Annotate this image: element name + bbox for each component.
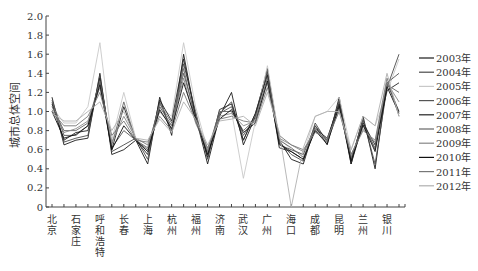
legend-label: 2006年	[436, 95, 471, 107]
legend-label: 2011年	[436, 166, 471, 178]
legend-label: 2003年	[436, 52, 471, 64]
x-tick-label: 海口	[286, 213, 296, 236]
legend-label: 2009年	[436, 137, 471, 149]
x-tick-label: 上海	[143, 214, 153, 236]
x-tick-label: 长春	[119, 214, 129, 236]
legend-label: 2007年	[436, 109, 471, 121]
x-tick-label: 北京	[47, 214, 57, 236]
y-tick-label: 0.2	[27, 182, 43, 193]
series-line-2006年	[52, 73, 399, 159]
x-tick-label: 福州	[191, 213, 201, 236]
series-lines	[52, 43, 399, 207]
legend-label: 2008年	[436, 123, 471, 135]
y-tick-label: 0.6	[27, 144, 43, 155]
x-tick-label: 兰州	[358, 213, 368, 236]
legend-label: 2005年	[436, 80, 471, 92]
legend-label: 2012年	[436, 180, 471, 192]
y-tick-label: 1.6	[27, 49, 43, 60]
y-tick-label: 0	[37, 202, 43, 213]
axes: 00.20.40.60.81.01.21.41.61.82.0北京石家庄呼和浩特…	[27, 11, 405, 259]
y-axis-label: 城市总体空间	[8, 82, 22, 148]
x-tick-label: 济南	[215, 213, 225, 236]
series-line-2010年	[52, 81, 399, 161]
y-tick-label: 1.4	[27, 68, 43, 79]
x-tick-label: 呼和浩特	[95, 214, 105, 258]
x-tick-label: 成都	[310, 214, 320, 236]
y-tick-label: 0.4	[27, 163, 43, 174]
y-tick-label: 1.8	[27, 30, 43, 41]
x-tick-label: 武汉	[238, 213, 248, 236]
x-tick-label: 广州	[262, 214, 272, 236]
x-tick-label: 银川	[382, 213, 392, 236]
legend-label: 2010年	[436, 151, 471, 163]
x-tick-label: 杭州	[167, 213, 177, 236]
legend: 2003年2004年2005年2006年2007年2008年2009年2010年…	[419, 52, 471, 192]
line-chart: 00.20.40.60.81.01.21.41.61.82.0北京石家庄呼和浩特…	[0, 0, 478, 271]
x-tick-label: 昆明	[334, 214, 344, 236]
y-tick-label: 1.2	[27, 87, 43, 98]
y-tick-label: 1.0	[27, 106, 43, 117]
legend-label: 2004年	[436, 66, 471, 78]
y-tick-label: 2.0	[27, 11, 43, 22]
y-tick-label: 0.8	[27, 125, 43, 136]
x-tick-label: 石家庄	[71, 214, 81, 247]
